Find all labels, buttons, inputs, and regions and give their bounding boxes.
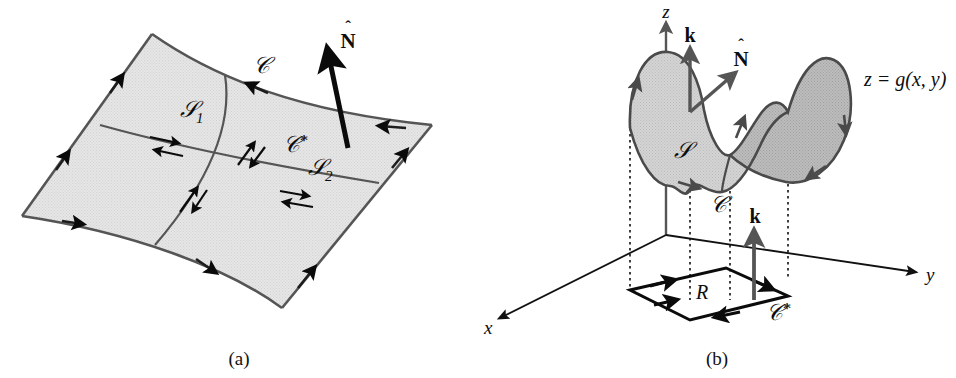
- region-r-outline: [630, 268, 788, 320]
- label-region-r: R: [695, 281, 708, 303]
- label-curve-c-a: 𝒞: [253, 53, 276, 78]
- axis-x: [500, 235, 666, 318]
- panel-a-svg: 𝒞 𝒞 * 𝒮 1 𝒮 2 ˆ N: [0, 0, 478, 378]
- label-normal-n-hat-a: ˆ N: [340, 17, 355, 53]
- label-c-star-mark-a: *: [299, 131, 308, 150]
- label-normal-n-hat-b: ˆ N: [733, 35, 748, 71]
- arrow-cs-1: [650, 280, 674, 286]
- arrow-cb-3: [736, 118, 744, 138]
- label-surface-equation: z = g(x, y): [863, 68, 947, 91]
- axis-y: [666, 235, 915, 272]
- panel-a: 𝒞 𝒞 * 𝒮 1 𝒮 2 ˆ N (a): [0, 0, 478, 378]
- surface-b-right-lobe-fill: [730, 58, 851, 182]
- label-s2-sub: 2: [325, 168, 333, 184]
- panel-b: z y x 𝒮 𝒞 𝒞 * R k k ˆ N z = g(x, y) (b): [478, 0, 956, 378]
- label-axis-z: z: [661, 1, 670, 22]
- figure-root: 𝒞 𝒞 * 𝒮 1 𝒮 2 ˆ N (a): [0, 0, 956, 378]
- surface-a: [22, 34, 432, 308]
- caption-a: (a): [0, 348, 478, 370]
- label-s1-sub: 1: [196, 110, 204, 126]
- region-r: [630, 268, 788, 320]
- label-k-lower: k: [749, 205, 761, 227]
- caption-b: (b): [478, 348, 956, 370]
- label-cstar-mark-b: *: [782, 299, 791, 318]
- label-axis-x: x: [483, 317, 493, 338]
- label-curve-cstar-b: 𝒞 *: [766, 299, 791, 325]
- label-k-upper: k: [684, 24, 696, 46]
- label-n-letter-b: N: [733, 47, 748, 71]
- label-n-letter-a: N: [340, 29, 355, 53]
- panel-b-svg: z y x 𝒮 𝒞 𝒞 * R k k ˆ N z = g(x, y): [478, 0, 956, 378]
- label-axis-y: y: [924, 264, 935, 285]
